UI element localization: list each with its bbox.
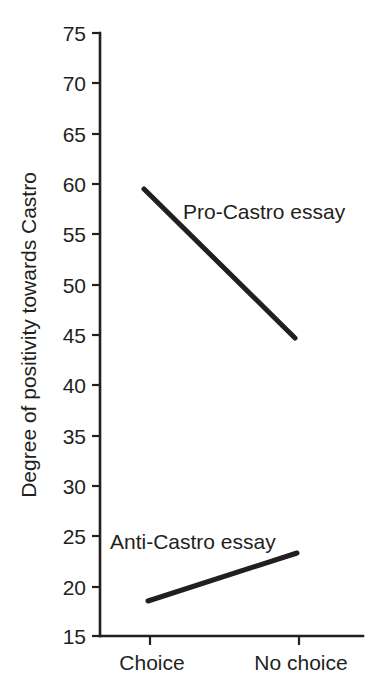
y-axis-title: Degree of positivity towards Castro <box>17 172 40 498</box>
y-tick-label-35: 35 <box>63 425 86 448</box>
y-tick-label-30: 30 <box>63 475 86 498</box>
series-label-pro-castro: Pro-Castro essay <box>183 200 346 223</box>
x-tick-label-no-choice: No choice <box>254 651 347 674</box>
series-label-anti-castro: Anti-Castro essay <box>110 530 276 553</box>
y-tick-label-25: 25 <box>63 525 86 548</box>
y-tick-label-65: 65 <box>63 123 86 146</box>
y-tick-label-55: 55 <box>63 223 86 246</box>
y-tick-label-40: 40 <box>63 374 86 397</box>
line-chart-figure: 75 70 65 60 55 50 45 40 35 30 25 20 15 D… <box>0 0 384 697</box>
y-tick-label-50: 50 <box>63 274 86 297</box>
y-tick-label-45: 45 <box>63 324 86 347</box>
y-tick-label-70: 70 <box>63 72 86 95</box>
y-axis-tick-labels: 75 70 65 60 55 50 45 40 35 30 25 20 15 <box>63 22 86 648</box>
x-tick-label-choice: Choice <box>119 651 184 674</box>
series-line-anti-castro <box>148 553 297 601</box>
y-tick-label-20: 20 <box>63 576 86 599</box>
y-tick-label-15: 15 <box>63 625 86 648</box>
chart-canvas: 75 70 65 60 55 50 45 40 35 30 25 20 15 D… <box>0 0 384 697</box>
x-axis-ticks <box>150 636 299 645</box>
y-tick-label-60: 60 <box>63 173 86 196</box>
y-tick-label-75: 75 <box>63 22 86 45</box>
